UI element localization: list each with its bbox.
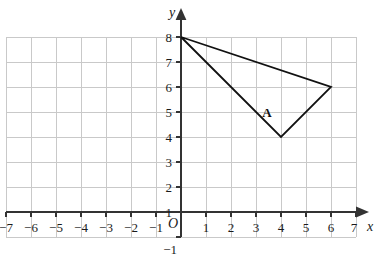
origin-label: O: [168, 216, 178, 231]
x-tick-label: 6: [328, 220, 335, 235]
y-tick-label: 6: [166, 80, 173, 95]
x-tick-label: −4: [74, 220, 88, 235]
x-axis-label: x: [366, 219, 374, 234]
x-tick-label: −2: [124, 220, 138, 235]
x-tick-label: 4: [278, 220, 285, 235]
x-tick-label: 5: [303, 220, 310, 235]
x-tick-label: −7: [0, 220, 13, 235]
y-tick-label: 7: [166, 55, 173, 70]
x-tick-label: 7: [351, 220, 358, 235]
y-axis-label: y: [167, 5, 176, 20]
y-tick-label: 2: [166, 180, 173, 195]
x-tick-label: −3: [99, 220, 113, 235]
y-tick-label-negative-one: −1: [163, 242, 177, 257]
coordinate-grid-figure: −7 −6 −5 −4 −3 −2 −1 1 2 3 4 5 6 7 8 7 6…: [0, 0, 381, 261]
x-tick-label: −1: [149, 220, 163, 235]
y-tick-label: 8: [166, 30, 173, 45]
y-tick-label: 5: [166, 105, 173, 120]
y-tick-label: 4: [166, 130, 173, 145]
x-tick-label: −6: [24, 220, 38, 235]
shape-label-a: A: [262, 105, 272, 120]
x-tick-label: 2: [228, 220, 235, 235]
y-tick-label: 3: [166, 155, 173, 170]
x-tick-label: −5: [49, 220, 63, 235]
x-tick-label: 1: [203, 220, 210, 235]
x-tick-label: 3: [253, 220, 260, 235]
